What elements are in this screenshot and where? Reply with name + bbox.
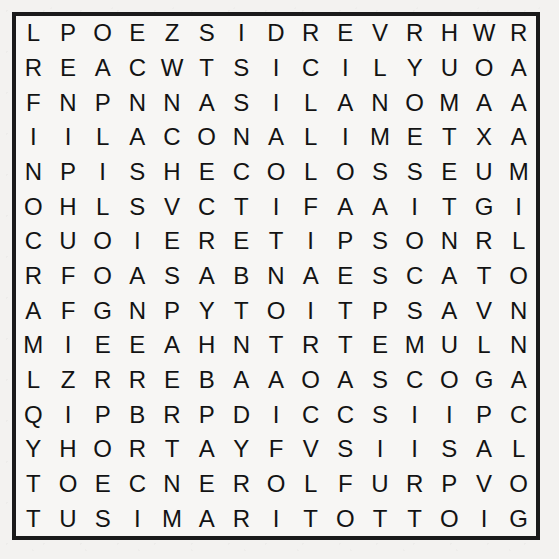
grid-cell[interactable]: R <box>189 224 224 259</box>
grid-cell[interactable]: S <box>224 85 259 120</box>
grid-cell[interactable]: O <box>467 51 502 86</box>
grid-cell[interactable]: N <box>155 467 190 502</box>
grid-cell[interactable]: N <box>224 120 259 155</box>
grid-cell[interactable]: P <box>467 397 502 432</box>
grid-cell[interactable]: L <box>85 189 120 224</box>
grid-cell[interactable]: R <box>120 432 155 467</box>
grid-cell[interactable]: I <box>328 51 363 86</box>
grid-cell[interactable]: A <box>120 120 155 155</box>
grid-cell[interactable]: F <box>293 189 328 224</box>
grid-cell[interactable]: A <box>155 328 190 363</box>
grid-cell[interactable]: V <box>155 189 190 224</box>
grid-cell[interactable]: H <box>51 189 86 224</box>
grid-cell[interactable]: R <box>120 363 155 398</box>
grid-cell[interactable]: S <box>363 363 398 398</box>
grid-cell[interactable]: T <box>328 328 363 363</box>
grid-cell[interactable]: E <box>120 328 155 363</box>
grid-cell[interactable]: N <box>259 259 294 294</box>
grid-cell[interactable]: H <box>155 155 190 190</box>
grid-cell[interactable]: R <box>467 224 502 259</box>
grid-cell[interactable]: V <box>293 432 328 467</box>
grid-cell[interactable]: O <box>432 501 467 536</box>
grid-cell[interactable]: R <box>397 467 432 502</box>
grid-cell[interactable]: I <box>120 224 155 259</box>
grid-cell[interactable]: I <box>51 328 86 363</box>
grid-cell[interactable]: I <box>328 120 363 155</box>
grid-cell[interactable]: U <box>51 224 86 259</box>
grid-cell[interactable]: G <box>501 501 536 536</box>
grid-cell[interactable]: N <box>16 155 51 190</box>
grid-cell[interactable]: U <box>467 155 502 190</box>
grid-cell[interactable]: O <box>85 259 120 294</box>
grid-cell[interactable]: A <box>224 363 259 398</box>
grid-cell[interactable]: A <box>432 259 467 294</box>
grid-cell[interactable]: I <box>293 224 328 259</box>
grid-cell[interactable]: L <box>16 363 51 398</box>
grid-cell[interactable]: V <box>363 16 398 51</box>
grid-cell[interactable]: C <box>293 397 328 432</box>
grid-cell[interactable]: I <box>501 189 536 224</box>
grid-cell[interactable]: E <box>51 51 86 86</box>
grid-cell[interactable]: S <box>363 224 398 259</box>
grid-cell[interactable]: Y <box>397 51 432 86</box>
grid-cell[interactable]: R <box>16 51 51 86</box>
grid-cell[interactable]: R <box>293 16 328 51</box>
grid-cell[interactable]: E <box>363 328 398 363</box>
grid-cell[interactable]: Q <box>16 397 51 432</box>
grid-cell[interactable]: F <box>16 85 51 120</box>
grid-cell[interactable]: L <box>293 155 328 190</box>
grid-cell[interactable]: I <box>363 432 398 467</box>
grid-cell[interactable]: N <box>51 85 86 120</box>
grid-cell[interactable]: S <box>120 189 155 224</box>
grid-cell[interactable]: F <box>51 293 86 328</box>
grid-cell[interactable]: M <box>397 328 432 363</box>
grid-cell[interactable]: E <box>397 120 432 155</box>
grid-cell[interactable]: C <box>328 397 363 432</box>
grid-cell[interactable]: A <box>467 432 502 467</box>
grid-cell[interactable]: B <box>189 363 224 398</box>
grid-cell[interactable]: O <box>328 501 363 536</box>
grid-cell[interactable]: Y <box>224 432 259 467</box>
grid-cell[interactable]: U <box>432 328 467 363</box>
grid-cell[interactable]: O <box>85 16 120 51</box>
grid-cell[interactable]: A <box>328 189 363 224</box>
grid-cell[interactable]: E <box>328 16 363 51</box>
grid-cell[interactable]: A <box>501 120 536 155</box>
grid-cell[interactable]: S <box>363 259 398 294</box>
grid-cell[interactable]: S <box>397 155 432 190</box>
grid-cell[interactable]: A <box>293 259 328 294</box>
grid-cell[interactable]: O <box>432 363 467 398</box>
grid-cell[interactable]: T <box>155 432 190 467</box>
grid-cell[interactable]: B <box>224 259 259 294</box>
grid-cell[interactable]: I <box>120 501 155 536</box>
grid-cell[interactable]: I <box>432 397 467 432</box>
grid-cell[interactable]: O <box>189 120 224 155</box>
grid-cell[interactable]: T <box>16 501 51 536</box>
grid-cell[interactable]: M <box>432 85 467 120</box>
grid-cell[interactable]: R <box>85 363 120 398</box>
grid-cell[interactable]: M <box>501 155 536 190</box>
grid-cell[interactable]: T <box>467 259 502 294</box>
grid-cell[interactable]: R <box>501 16 536 51</box>
grid-cell[interactable]: E <box>189 467 224 502</box>
grid-cell[interactable]: L <box>467 328 502 363</box>
grid-cell[interactable]: N <box>224 328 259 363</box>
grid-cell[interactable]: G <box>467 189 502 224</box>
grid-cell[interactable]: I <box>293 293 328 328</box>
grid-cell[interactable]: N <box>155 85 190 120</box>
grid-cell[interactable]: N <box>501 293 536 328</box>
grid-cell[interactable]: A <box>120 259 155 294</box>
grid-cell[interactable]: N <box>432 224 467 259</box>
grid-cell[interactable]: A <box>189 259 224 294</box>
grid-cell[interactable]: T <box>189 51 224 86</box>
grid-cell[interactable]: A <box>259 120 294 155</box>
grid-cell[interactable]: E <box>224 224 259 259</box>
grid-cell[interactable]: U <box>51 501 86 536</box>
grid-cell[interactable]: W <box>155 51 190 86</box>
grid-cell[interactable]: E <box>120 16 155 51</box>
grid-cell[interactable]: P <box>51 155 86 190</box>
grid-cell[interactable]: O <box>85 224 120 259</box>
grid-cell[interactable]: L <box>293 120 328 155</box>
grid-cell[interactable]: E <box>328 259 363 294</box>
grid-cell[interactable]: E <box>85 328 120 363</box>
